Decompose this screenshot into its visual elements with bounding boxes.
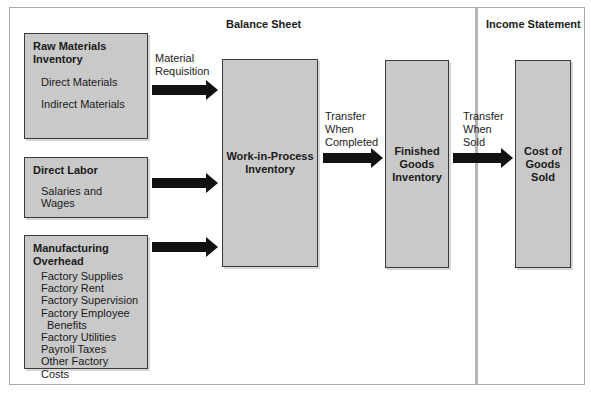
arrow-overhead-to-wip: [152, 237, 218, 257]
cost-of-goods-sold-box: Cost of Goods Sold: [515, 60, 571, 268]
overhead-item: Payroll Taxes: [41, 343, 139, 355]
manufacturing-overhead-title: Manufacturing: [33, 242, 139, 255]
indirect-materials-item: Indirect Materials: [41, 98, 139, 110]
transfer-when-completed-label: Transfer When Completed: [325, 110, 378, 149]
transfer-when-sold-label: Transfer When Sold: [463, 110, 504, 149]
overhead-item: Factory Utilities: [41, 331, 139, 343]
overhead-item: Other Factory Costs: [41, 355, 139, 379]
overhead-item: Factory Employee: [41, 307, 139, 319]
work-in-process-inventory-box: Work-in-Process Inventory: [222, 59, 318, 267]
material-requisition-label: Material Requisition: [155, 52, 209, 78]
balance-sheet-heading: Balance Sheet: [226, 18, 301, 30]
income-statement-heading: Income Statement: [486, 18, 581, 30]
overhead-item: Factory Supervision: [41, 294, 139, 306]
direct-labor-box: Direct Labor Salaries and Wages: [24, 157, 148, 218]
salaries-wages-item: Salaries and Wages: [41, 185, 139, 209]
manufacturing-overhead-box: Manufacturing Overhead Factory Supplies …: [24, 235, 148, 369]
raw-materials-title: Raw Materials: [33, 40, 139, 53]
overhead-item: Factory Supplies: [41, 270, 139, 282]
finished-goods-inventory-box: Finished Goods Inventory: [385, 60, 449, 268]
manufacturing-overhead-title-2: Overhead: [33, 255, 139, 268]
raw-materials-title-2: Inventory: [33, 53, 139, 66]
finished-goods-label: Finished: [392, 145, 442, 158]
wip-label: Work-in-Process: [226, 150, 313, 163]
arrow-raw-to-wip: [152, 80, 218, 100]
wip-label-2: Inventory: [226, 163, 313, 176]
direct-materials-item: Direct Materials: [41, 76, 139, 88]
arrow-labor-to-wip: [152, 173, 218, 193]
overhead-item: Factory Rent: [41, 282, 139, 294]
arrow-finished-goods-to-cogs: [453, 148, 513, 168]
arrow-wip-to-finished-goods: [323, 148, 383, 168]
cogs-label: Cost of: [524, 145, 562, 158]
section-divider: [475, 7, 478, 385]
overhead-item: Benefits: [41, 319, 139, 331]
direct-labor-title: Direct Labor: [33, 164, 139, 177]
raw-materials-inventory-box: Raw Materials Inventory Direct Materials…: [24, 33, 148, 139]
